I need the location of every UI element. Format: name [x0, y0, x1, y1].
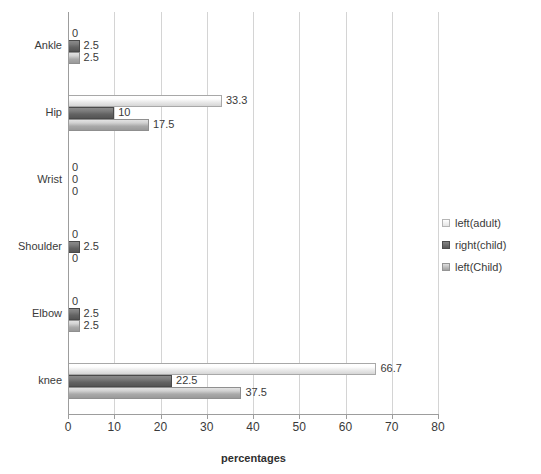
- category-axis-labels: AnkleHipWristShoulderElbowknee: [0, 12, 62, 414]
- gridline-20: [161, 12, 162, 414]
- bar-row: 0: [68, 253, 438, 265]
- bar-row: 66.7: [68, 363, 438, 375]
- gridline-80: [438, 12, 439, 414]
- bar-group-ankle: 02.52.5: [68, 28, 438, 64]
- chart-title: [150, 0, 400, 2]
- bar-group-elbow: 02.52.5: [68, 296, 438, 332]
- bar-row: 0: [68, 174, 438, 186]
- bar-value-label: 37.5: [245, 385, 266, 400]
- bar-value-label: 0: [72, 294, 78, 309]
- bar-elbow-rightchild: [68, 308, 80, 320]
- x-tick-0: [68, 414, 69, 419]
- bar-elbow-leftchild: [68, 320, 80, 332]
- bar-value-label: 17.5: [153, 117, 174, 132]
- bar-ankle-leftchild: [68, 52, 80, 64]
- bar-value-label: 2.5: [84, 50, 99, 65]
- legend-swatch-icon: [442, 241, 450, 249]
- bar-knee-leftchild: [68, 387, 241, 399]
- bar-value-label: 66.7: [380, 361, 401, 376]
- legend-item-leftchild[interactable]: left(Child): [442, 256, 538, 278]
- bar-value-label: 10: [118, 105, 130, 120]
- legend-swatch-icon: [442, 263, 450, 271]
- bar-row: 0: [68, 229, 438, 241]
- x-tick-70: [392, 414, 393, 419]
- bar-knee-rightchild: [68, 375, 172, 387]
- bar-value-label: 22.5: [176, 373, 197, 388]
- legend-item-rightchild[interactable]: right(child): [442, 234, 538, 256]
- legend-swatch-icon: [442, 219, 450, 227]
- x-tick-label-30: 30: [192, 420, 222, 434]
- x-tick-label-40: 40: [238, 420, 268, 434]
- bar-value-label: 0: [72, 227, 78, 242]
- bar-group-shoulder: 02.50: [68, 229, 438, 265]
- gridline-60: [346, 12, 347, 414]
- gridline-10: [114, 12, 115, 414]
- plot-area: 02.52.533.31017.500002.5002.52.566.722.5…: [68, 12, 438, 414]
- bar-knee-leftadult: [68, 363, 376, 375]
- bar-row: 0: [68, 186, 438, 198]
- gridline-40: [253, 12, 254, 414]
- bar-row: 2.5: [68, 308, 438, 320]
- y-axis-line: [68, 12, 69, 415]
- gridline-50: [299, 12, 300, 414]
- x-tick-label-80: 80: [423, 420, 453, 434]
- x-tick-30: [207, 414, 208, 419]
- category-label-wrist: Wrist: [0, 173, 62, 185]
- x-tick-20: [161, 414, 162, 419]
- x-tick-60: [346, 414, 347, 419]
- legend-item-leftadult[interactable]: left(adult): [442, 212, 538, 234]
- x-tick-10: [114, 414, 115, 419]
- x-tick-label-10: 10: [99, 420, 129, 434]
- category-label-hip: Hip: [0, 106, 62, 118]
- bar-ankle-rightchild: [68, 40, 80, 52]
- x-tick-label-60: 60: [331, 420, 361, 434]
- bar-row: 2.5: [68, 241, 438, 253]
- legend-label: left(Child): [455, 261, 502, 273]
- bar-hip-rightchild: [68, 107, 114, 119]
- bar-row: 10: [68, 107, 438, 119]
- bar-row: 17.5: [68, 119, 438, 131]
- x-tick-40: [253, 414, 254, 419]
- bar-value-label: 0: [72, 26, 78, 41]
- category-label-elbow: Elbow: [0, 307, 62, 319]
- legend-label: right(child): [455, 239, 506, 251]
- x-tick-50: [299, 414, 300, 419]
- bar-row: 0: [68, 296, 438, 308]
- bar-value-label: 0: [72, 251, 78, 266]
- chart-legend: left(adult)right(child)left(Child): [442, 212, 538, 278]
- x-tick-label-50: 50: [284, 420, 314, 434]
- bar-chart: 02.52.533.31017.500002.5002.52.566.722.5…: [0, 0, 541, 474]
- gridline-70: [392, 12, 393, 414]
- bar-row: 0: [68, 162, 438, 174]
- bar-row: 0: [68, 28, 438, 40]
- bar-hip-leftadult: [68, 95, 222, 107]
- bar-group-wrist: 000: [68, 162, 438, 198]
- bar-value-label: 33.3: [226, 93, 247, 108]
- bar-group-knee: 66.722.537.5: [68, 363, 438, 399]
- x-tick-label-20: 20: [146, 420, 176, 434]
- x-tick-label-0: 0: [53, 420, 83, 434]
- bar-row: 2.5: [68, 52, 438, 64]
- category-label-knee: knee: [0, 374, 62, 386]
- bar-value-label: 0: [72, 184, 78, 199]
- bar-value-label: 2.5: [84, 239, 99, 254]
- bar-row: 2.5: [68, 40, 438, 52]
- bar-row: 2.5: [68, 320, 438, 332]
- bar-value-label: 2.5: [84, 318, 99, 333]
- x-tick-label-70: 70: [377, 420, 407, 434]
- bar-group-hip: 33.31017.5: [68, 95, 438, 131]
- x-axis-title: percentages: [68, 452, 439, 464]
- gridline-30: [207, 12, 208, 414]
- legend-label: left(adult): [455, 217, 501, 229]
- x-tick-80: [438, 414, 439, 419]
- category-label-shoulder: Shoulder: [0, 240, 62, 252]
- category-label-ankle: Ankle: [0, 39, 62, 51]
- bar-hip-leftchild: [68, 119, 149, 131]
- bar-row: 37.5: [68, 387, 438, 399]
